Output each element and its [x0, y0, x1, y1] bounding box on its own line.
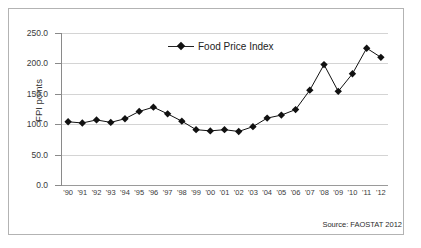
data-point-marker: [64, 118, 71, 125]
data-point-marker: [178, 117, 185, 124]
legend-label: Food Price Index: [198, 41, 274, 52]
y-axis-tick: [55, 155, 62, 156]
data-point-marker: [278, 111, 285, 118]
legend-marker-icon: [168, 42, 194, 52]
data-point-marker: [93, 116, 100, 123]
y-axis-tick: [55, 124, 62, 125]
data-point-marker: [192, 126, 199, 133]
data-point-marker: [121, 115, 128, 122]
y-axis-tick: [55, 94, 62, 95]
data-point-marker: [292, 106, 299, 113]
y-axis-tick: [55, 185, 62, 186]
series-line-food-price-index: [0, 0, 421, 248]
data-point-marker: [79, 119, 86, 126]
data-point-marker: [306, 86, 313, 93]
source-note: Source: FAOSTAT 2012: [322, 220, 402, 229]
data-point-marker: [377, 54, 384, 61]
y-axis-tick: [55, 63, 62, 64]
data-point-marker: [150, 103, 157, 110]
data-point-marker: [320, 61, 327, 68]
data-point-marker: [221, 126, 228, 133]
data-point-marker: [235, 128, 242, 135]
data-point-marker: [107, 119, 114, 126]
data-point-marker: [136, 108, 143, 115]
series-line: [68, 48, 381, 131]
data-point-marker: [249, 123, 256, 130]
data-point-marker: [164, 110, 171, 117]
chart-legend: Food Price Index: [168, 41, 274, 52]
data-point-marker: [207, 127, 214, 134]
data-point-marker: [263, 114, 270, 121]
y-axis-tick: [55, 33, 62, 34]
data-point-marker: [363, 45, 370, 52]
